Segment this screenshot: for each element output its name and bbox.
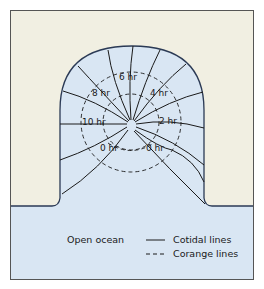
legend-corange-label: Corange lines: [173, 248, 238, 259]
label-0hr-left: 0 hr: [100, 143, 118, 153]
label-8hr: 8 hr: [92, 88, 110, 98]
tidal-bay-diagram: 6 hr 8 hr 4 hr 10 hr 2 hr 0 hr 0 hr Open…: [0, 0, 264, 289]
label-10hr: 10 hr: [82, 117, 106, 127]
label-4hr: 4 hr: [150, 88, 168, 98]
legend-cotidal-label: Cotidal lines: [173, 234, 231, 245]
label-2hr: 2 hr: [159, 116, 177, 126]
label-6hr: 6 hr: [119, 72, 137, 82]
legend-open-ocean: Open ocean: [67, 234, 124, 245]
label-0hr-right: 0 hr: [146, 143, 164, 153]
